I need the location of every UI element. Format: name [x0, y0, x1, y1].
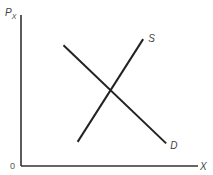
series-label-d: D — [170, 140, 177, 151]
series-label-s: S — [148, 33, 155, 44]
series-line-s — [78, 39, 143, 142]
supply-demand-chart: PX X 0 DS — [0, 0, 213, 175]
series-line-d — [63, 45, 166, 143]
origin-label: 0 — [10, 161, 15, 171]
y-axis-label: PX — [5, 7, 17, 20]
x-axis-label: X — [199, 161, 207, 172]
